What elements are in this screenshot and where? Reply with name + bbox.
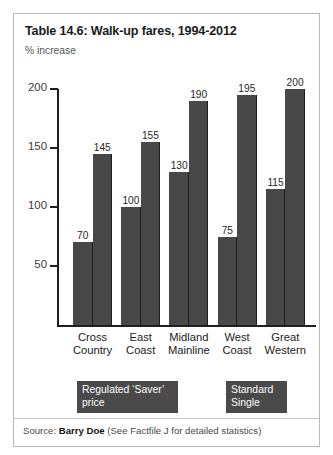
bar-value-label: 195 [238, 83, 255, 94]
bar [169, 172, 189, 325]
category-label-line2: Country [73, 344, 112, 357]
bar [237, 95, 257, 325]
y-tick-mark [50, 265, 58, 267]
category-label: CrossCountry [73, 331, 112, 357]
bar [218, 237, 238, 326]
legend-standard-line1: Standard [231, 384, 282, 397]
legend-standard-single: Standard Single [226, 381, 287, 413]
category-label: MidlandMainline [168, 331, 210, 357]
bar-value-label: 190 [190, 89, 207, 100]
y-tick-mark [50, 88, 58, 90]
y-tick-label: 50 [7, 258, 47, 270]
source-prefix: Source: [23, 425, 59, 436]
bar-value-label: 75 [222, 225, 233, 236]
category-label-line2: Mainline [168, 344, 210, 357]
page-title: Table 14.6: Walk-up fares, 1994-2012 [25, 24, 237, 38]
source-note: (See Factfile J for detailed statistics) [105, 425, 262, 436]
category-label-line1: Cross [73, 331, 112, 344]
category-label: EastCoast [126, 331, 155, 357]
y-tick-mark [50, 147, 58, 149]
bar-value-label: 100 [122, 195, 139, 206]
legend-regulated-line2: price [82, 397, 173, 410]
bar-chart-plot: 50100150200 7014510015513019075195115200… [14, 72, 319, 319]
bar-value-label: 200 [287, 77, 304, 88]
y-tick-label: 150 [7, 140, 47, 152]
category-label-line2: Western [265, 344, 306, 357]
category-label-line1: Great [265, 331, 306, 344]
source-divider [14, 418, 319, 419]
bar [285, 89, 305, 325]
source-line: Source: Barry Doe (See Factfile J for de… [23, 425, 261, 436]
bar-value-label: 130 [171, 160, 188, 171]
legend-regulated-line1: Regulated ‘Saver’ [82, 384, 173, 397]
y-tick-mark [50, 206, 58, 208]
category-label: GreatWestern [265, 331, 306, 357]
legend-regulated-saver-price: Regulated ‘Saver’ price [77, 381, 178, 413]
legend-standard-line2: Single [231, 397, 282, 410]
bar-value-label: 70 [77, 230, 88, 241]
category-label-line2: Coast [222, 344, 251, 357]
y-tick-label: 100 [7, 199, 47, 211]
bar-value-label: 145 [94, 142, 111, 153]
chart-card: Table 14.6: Walk-up fares, 1994-2012 % i… [13, 13, 320, 447]
bar [266, 189, 286, 325]
bar-value-label: 155 [142, 130, 159, 141]
y-tick-label: 200 [7, 81, 47, 93]
category-label-line1: Midland [168, 331, 210, 344]
source-author: Barry Doe [59, 425, 105, 436]
category-label-line1: East [126, 331, 155, 344]
bar [121, 207, 141, 325]
y-axis-unit-label: % increase [25, 45, 76, 56]
category-label-line1: West [222, 331, 251, 344]
x-axis-baseline [57, 325, 316, 327]
bar [141, 142, 161, 325]
category-label: WestCoast [222, 331, 251, 357]
bar [189, 101, 209, 325]
bar-value-label: 115 [267, 177, 283, 188]
bar [73, 242, 93, 325]
category-label-line2: Coast [126, 344, 155, 357]
bar [93, 154, 113, 325]
